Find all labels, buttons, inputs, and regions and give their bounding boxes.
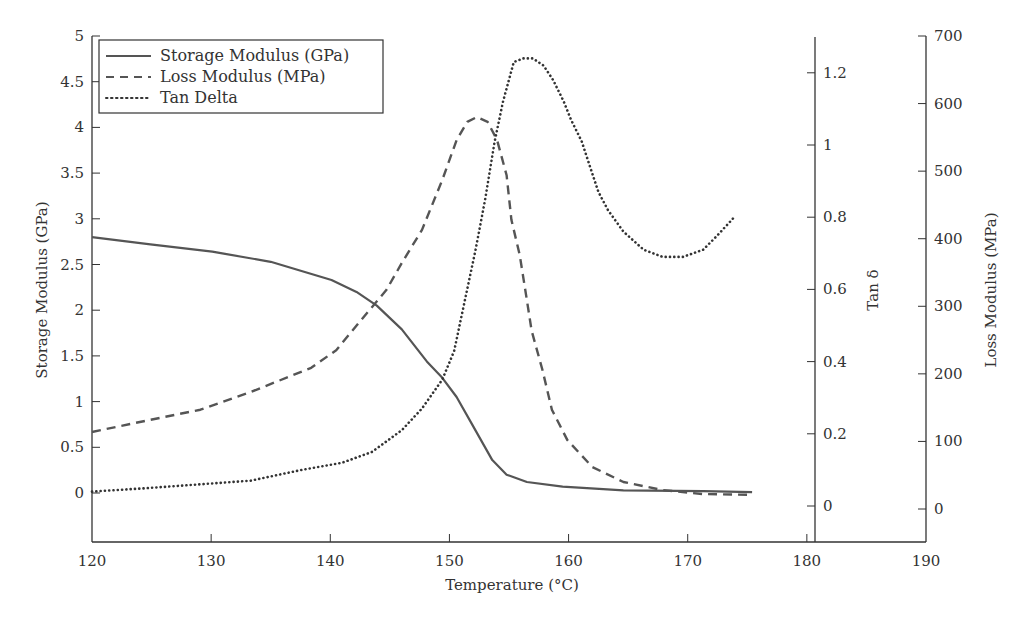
x-tick-label: 150 [435, 552, 464, 570]
tan-y-tick-label: 0.8 [823, 208, 847, 226]
series-layer [92, 58, 752, 494]
tan-y-tick-label: 0.6 [823, 280, 847, 298]
x-tick-label: 170 [673, 552, 702, 570]
series-dotted-line [92, 58, 734, 491]
legend-label-storage: Storage Modulus (GPa) [160, 46, 349, 65]
x-axis-title: Temperature (°C) [445, 576, 579, 594]
loss-y-tick-label: 200 [934, 365, 963, 383]
x-tick-label: 180 [793, 552, 822, 570]
tan-y-tick-label: 0.2 [823, 425, 847, 443]
x-tick-label: 140 [316, 552, 345, 570]
dma-chart: 12013014015016017018019000.511.522.533.5… [0, 0, 1024, 620]
loss-y-tick-label: 0 [934, 500, 944, 518]
left-y-tick-label: 3.5 [60, 164, 84, 182]
left-y-tick-label: 3 [74, 210, 84, 228]
series-dashed-line [92, 117, 752, 495]
series-solid-line [92, 237, 752, 492]
left-y-tick-label: 4 [74, 118, 84, 136]
loss-y-tick-label: 400 [934, 230, 963, 248]
left-y-tick-label: 2.5 [60, 256, 84, 274]
loss-y-tick-label: 700 [934, 27, 963, 45]
loss-y-tick-label: 100 [934, 432, 963, 450]
tan-y-axis-title: Tan δ [864, 269, 882, 310]
tan-y-tick-label: 0 [823, 497, 833, 515]
loss-y-axis-title: Loss Modulus (MPa) [982, 212, 1000, 367]
loss-y-tick-label: 500 [934, 162, 963, 180]
left-y-tick-label: 1 [74, 393, 84, 411]
loss-y-tick-label: 600 [934, 95, 963, 113]
legend-label-loss: Loss Modulus (MPa) [160, 67, 326, 86]
loss-y-tick-label: 300 [934, 297, 963, 315]
legend-label-tan: Tan Delta [160, 88, 238, 107]
left-y-tick-label: 2 [74, 301, 84, 319]
left-y-tick-label: 0.5 [60, 438, 84, 456]
left-y-tick-label: 0 [74, 484, 84, 502]
left-y-tick-label: 1.5 [60, 347, 84, 365]
tan-y-tick-label: 0.4 [823, 353, 847, 371]
left-y-tick-label: 5 [74, 27, 84, 45]
x-tick-label: 190 [912, 552, 941, 570]
x-tick-label: 160 [554, 552, 583, 570]
left-y-axis-title: Storage Modulus (GPa) [33, 201, 51, 378]
legend: Storage Modulus (GPa) Loss Modulus (MPa)… [99, 40, 383, 113]
x-tick-label: 130 [197, 552, 226, 570]
left-y-tick-label: 4.5 [60, 73, 84, 91]
tan-y-tick-label: 1.2 [823, 64, 847, 82]
tan-y-tick-label: 1 [823, 136, 833, 154]
x-tick-label: 120 [78, 552, 107, 570]
